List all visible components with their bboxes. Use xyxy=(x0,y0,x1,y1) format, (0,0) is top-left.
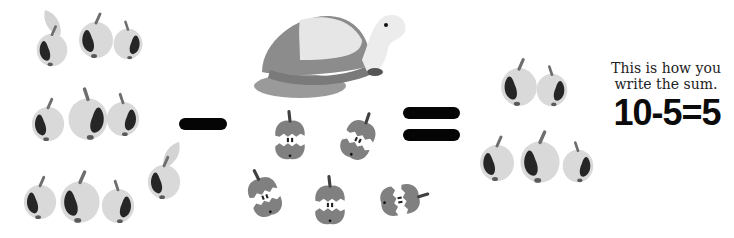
apple-icon xyxy=(107,94,139,136)
apple-core-icon xyxy=(241,165,285,220)
equals-bottom-bar-icon xyxy=(403,129,460,141)
apple-icon xyxy=(68,89,107,140)
turtle-foot-icon xyxy=(367,68,383,76)
instruction-caption: This is how you write the sum. xyxy=(598,60,734,92)
apple-icon xyxy=(537,67,568,107)
equation-text: 10-5=5 xyxy=(600,92,734,134)
apple-icon xyxy=(148,157,180,199)
equals-top-bar-icon xyxy=(403,107,460,119)
apple-icon xyxy=(32,99,64,141)
apple-icon xyxy=(114,22,143,59)
apple-icon xyxy=(79,14,113,58)
apple-icon xyxy=(480,137,514,181)
turtle-eye-icon xyxy=(384,23,388,27)
apple-icon xyxy=(520,132,559,183)
caption-line-2: write the sum. xyxy=(598,76,734,92)
apple-icon xyxy=(24,177,56,219)
apple-icon xyxy=(37,27,68,67)
caption-line-1: This is how you xyxy=(598,60,734,76)
apple-icon xyxy=(102,181,134,223)
apple-core-icon xyxy=(378,181,430,218)
apple-icon xyxy=(563,143,594,183)
minus-sign-icon xyxy=(179,118,227,130)
apple-icon xyxy=(501,60,537,106)
apple-core-icon xyxy=(336,108,383,164)
apple-core-icon xyxy=(315,177,345,225)
apple-icon xyxy=(60,172,99,223)
turtle-head-icon xyxy=(362,15,406,74)
apple-core-icon xyxy=(275,112,305,160)
